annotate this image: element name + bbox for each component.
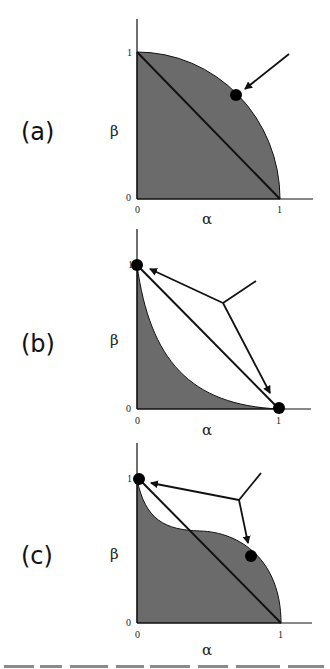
cutoff-caption [4,665,324,668]
y-tick-0-a: 0 [126,192,131,203]
point-marker-a [230,89,242,101]
fork-stem-b [223,281,256,303]
point-marker-bottom-b [273,402,285,414]
x-label-c: α [202,641,212,659]
x-tick-1-a: 1 [277,204,282,215]
x-label-a: α [202,210,212,228]
y-label-b: β [110,331,119,349]
x-tick-0-a: 0 [135,204,140,215]
arrow-to-top-c [151,483,239,500]
x-tick-1-c: 1 [278,629,283,640]
figure-canvas: 1 0 0 1 β α 1 0 0 1 β α 1 0 0 [0,0,330,669]
panel-b-plot: 1 0 0 1 β α [110,229,311,439]
arrow-a [245,54,289,89]
arrow-to-top-b [150,269,223,303]
point-marker-top-c [133,473,145,485]
y-label-c: β [110,545,119,563]
point-marker-curve-c [245,550,257,562]
panel-c-plot: 1 0 0 1 β α [110,443,312,659]
x-tick-0-b: 0 [135,415,140,426]
y-tick-0-b: 0 [126,403,131,414]
fork-stem-c [239,473,261,500]
x-tick-0-c: 0 [135,629,140,640]
x-label-b: α [202,421,212,439]
y-tick-1-a: 1 [127,47,132,58]
y-tick-1-c: 1 [127,473,132,484]
arrow-to-curve-c [239,500,248,543]
panel-a-plot: 1 0 0 1 β α [110,19,313,228]
arrow-to-bottom-b [223,303,270,393]
y-label-a: β [110,122,119,140]
x-tick-1-b: 1 [276,415,281,426]
y-tick-1-b: 1 [128,259,133,270]
y-tick-0-c: 0 [126,617,131,628]
